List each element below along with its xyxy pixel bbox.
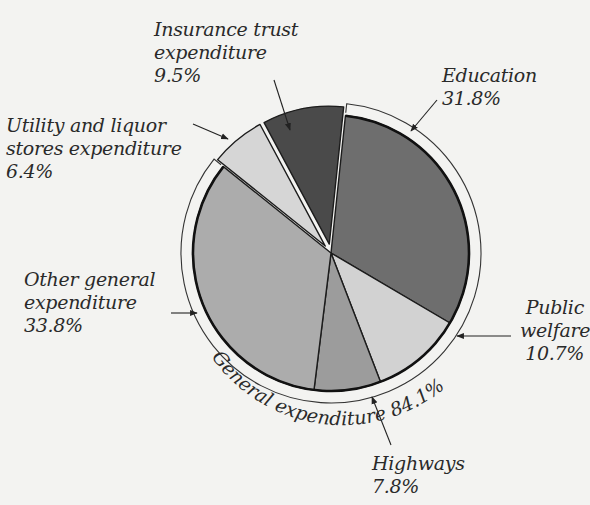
label-line: Other general xyxy=(24,268,155,291)
label-percent: 7.8% xyxy=(372,475,465,498)
label-line: Highways xyxy=(372,452,465,475)
label-line: Utility and liquor xyxy=(6,114,182,137)
pie-chart: General expenditure 84.1% Insurance trus… xyxy=(0,0,590,505)
label-other-general: Other general expenditure 33.8% xyxy=(24,268,155,337)
label-line: welfare xyxy=(520,319,584,342)
label-line: Insurance trust xyxy=(154,18,298,41)
label-public-welfare: Public welfare 10.7% xyxy=(520,296,584,365)
label-line: Education xyxy=(442,64,537,87)
utility-arrow xyxy=(193,124,228,139)
label-line: expenditure xyxy=(154,41,298,64)
label-line: expenditure xyxy=(24,291,155,314)
label-percent: 33.8% xyxy=(24,314,155,337)
label-insurance-trust: Insurance trust expenditure 9.5% xyxy=(154,18,298,87)
education-arrow xyxy=(411,100,437,131)
label-percent: 10.7% xyxy=(520,342,584,365)
label-education: Education 31.8% xyxy=(442,64,537,110)
label-percent: 31.8% xyxy=(442,87,537,110)
pie-slices xyxy=(193,106,469,391)
label-line: Public xyxy=(520,296,584,319)
label-line: stores expenditure xyxy=(6,137,182,160)
label-percent: 6.4% xyxy=(6,160,182,183)
label-percent: 9.5% xyxy=(154,64,298,87)
label-highways: Highways 7.8% xyxy=(372,452,465,498)
label-utility-liquor: Utility and liquor stores expenditure 6.… xyxy=(6,114,182,183)
